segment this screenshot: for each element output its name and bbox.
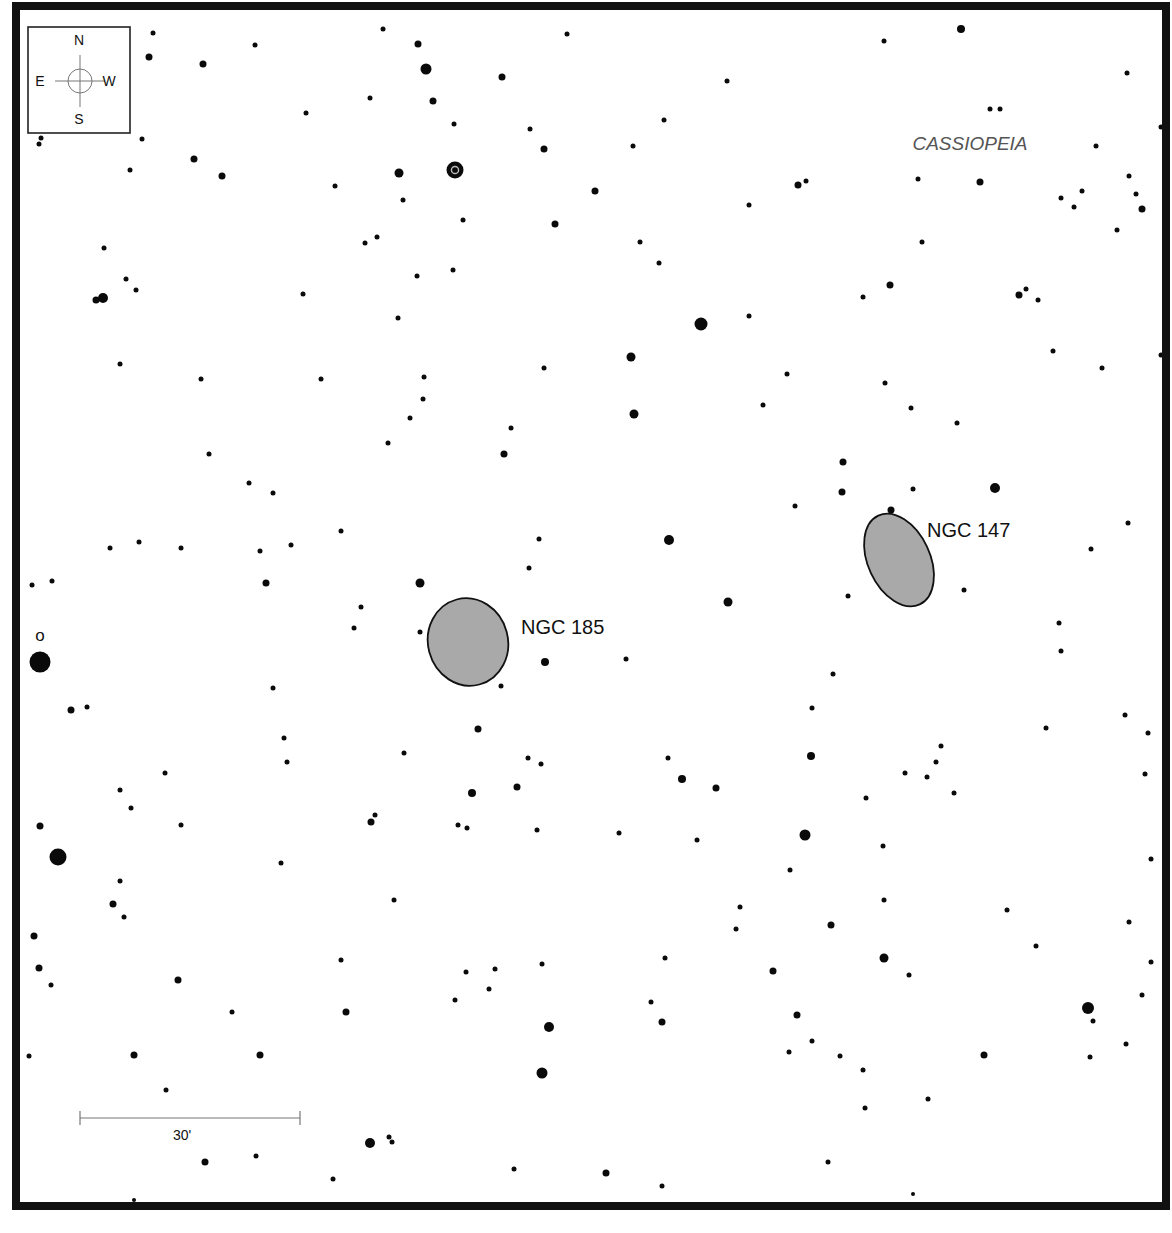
star-icon: [199, 377, 204, 382]
star-icon: [421, 397, 426, 402]
star-icon: [368, 96, 373, 101]
star-icon: [795, 182, 802, 189]
star-icon: [39, 136, 44, 141]
compass-west-label: W: [102, 73, 116, 89]
star-icon: [713, 785, 720, 792]
star-icon: [421, 64, 432, 75]
star-icon: [1034, 944, 1039, 949]
star-icon: [319, 377, 324, 382]
star-icon: [724, 598, 733, 607]
star-icon: [535, 828, 540, 833]
star-icon: [934, 760, 939, 765]
star-icon: [122, 915, 127, 920]
star-icon: [1082, 1002, 1094, 1014]
star-icon: [98, 293, 108, 303]
star-icon: [1139, 206, 1146, 213]
star-icon: [451, 268, 456, 273]
star-icon: [200, 61, 207, 68]
star-icon: [888, 507, 895, 514]
star-icon: [279, 861, 284, 866]
star-icon: [132, 1198, 136, 1202]
star-icon: [810, 706, 815, 711]
star-icon: [861, 1068, 866, 1073]
star-icon: [881, 844, 886, 849]
star-icon: [734, 927, 739, 932]
star-icon: [838, 1054, 843, 1059]
star-icon: [794, 1012, 801, 1019]
star-icon: [191, 156, 198, 163]
star-icon: [1149, 960, 1154, 965]
star-icon: [630, 410, 639, 419]
star-icon: [390, 1140, 395, 1145]
star-icon: [988, 107, 993, 112]
star-icon: [903, 771, 908, 776]
star-icon: [666, 756, 671, 761]
star-icon: [725, 79, 730, 84]
star-icon: [747, 314, 752, 319]
star-icon: [939, 744, 944, 749]
star-icon: [128, 168, 133, 173]
star-icon: [258, 549, 263, 554]
star-icon: [920, 240, 925, 245]
star-icon: [552, 221, 559, 228]
star-icon: [381, 27, 386, 32]
star-icon: [118, 879, 123, 884]
star-icon: [50, 849, 67, 866]
galaxy-label: NGC 147: [927, 519, 1010, 541]
star-icon: [840, 459, 847, 466]
star-icon: [907, 973, 912, 978]
star-icon: [1127, 174, 1132, 179]
star-icon: [110, 901, 117, 908]
star-icon: [331, 1177, 336, 1182]
star-icon: [695, 838, 700, 843]
star-icon: [539, 762, 544, 767]
star-icon: [151, 31, 156, 36]
star-icon: [793, 504, 798, 509]
star-icon: [512, 1167, 517, 1172]
star-icon: [416, 579, 425, 588]
star-icon: [1016, 292, 1023, 299]
star-icon: [624, 657, 629, 662]
star-icon: [882, 898, 887, 903]
star-icon: [657, 261, 662, 266]
star-icon: [118, 362, 123, 367]
star-icon: [540, 962, 545, 967]
star-label: o: [35, 626, 44, 645]
star-icon: [527, 566, 532, 571]
star-icon: [108, 546, 113, 551]
star-icon: [1115, 228, 1120, 233]
star-icon: [493, 967, 498, 972]
star-icon: [678, 775, 686, 783]
star-icon: [253, 43, 258, 48]
star-icon: [368, 819, 375, 826]
star-icon: [487, 987, 492, 992]
compass-rose: N S E W: [28, 27, 130, 133]
star-icon: [430, 98, 437, 105]
star-icon: [592, 188, 599, 195]
star-icon: [603, 1170, 610, 1177]
star-icon: [785, 372, 790, 377]
star-icon: [163, 771, 168, 776]
star-icon: [1072, 205, 1077, 210]
star-icon: [998, 107, 1003, 112]
star-icon: [333, 184, 338, 189]
star-icon: [660, 1184, 665, 1189]
star-icon: [202, 1159, 209, 1166]
star-icon: [916, 177, 921, 182]
star-icon: [631, 144, 636, 149]
star-icon: [911, 487, 916, 492]
star-icon: [828, 922, 835, 929]
star-icon: [418, 630, 423, 635]
star-icon: [118, 788, 123, 793]
star-icon: [662, 118, 667, 123]
star-icon: [1059, 196, 1064, 201]
star-icon: [230, 1010, 235, 1015]
star-icon: [134, 288, 139, 293]
star-icon: [565, 32, 570, 37]
star-icon: [387, 1135, 392, 1140]
star-icon: [804, 179, 809, 184]
star-icon: [464, 970, 469, 975]
star-icon: [373, 813, 378, 818]
star-icon: [544, 1022, 554, 1032]
star-icon: [289, 543, 294, 548]
